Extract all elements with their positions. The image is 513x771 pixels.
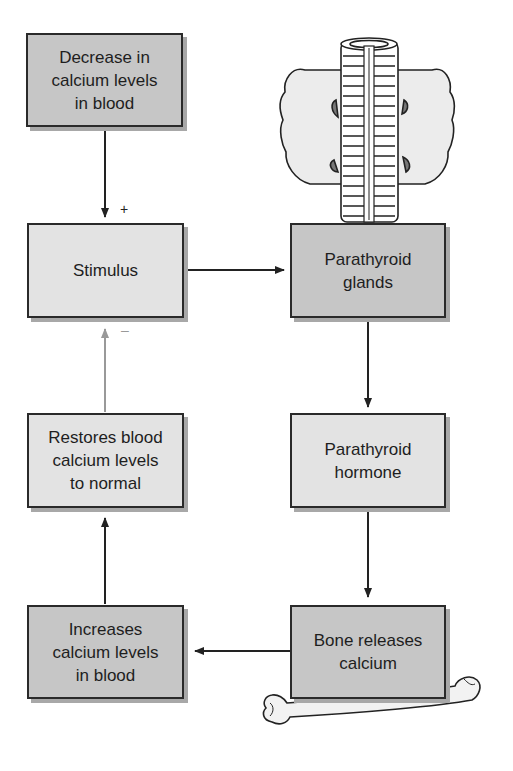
box-stimulus: Stimulus	[27, 223, 184, 318]
box-decrease-calcium: Decrease in calcium levels in blood	[26, 33, 183, 127]
positive-sign: +	[120, 201, 128, 217]
box-parathyroid-glands: Parathyroid glands	[290, 223, 446, 318]
box-bone-releases-label: Bone releases calcium	[314, 629, 423, 675]
trachea-parathyroid-illustration	[280, 38, 454, 222]
box-bone-releases: Bone releases calcium	[290, 605, 446, 699]
box-restores-calcium-label: Restores blood calcium levels to normal	[48, 426, 162, 495]
box-stimulus-label: Stimulus	[73, 259, 138, 282]
box-increases-calcium: Increases calcium levels in blood	[27, 605, 184, 699]
box-restores-calcium: Restores blood calcium levels to normal	[27, 413, 184, 508]
box-parathyroid-hormone: Parathyroid hormone	[290, 413, 446, 508]
box-parathyroid-glands-label: Parathyroid glands	[325, 248, 412, 294]
negative-sign: –	[121, 322, 129, 338]
box-decrease-calcium-label: Decrease in calcium levels in blood	[52, 46, 158, 115]
box-increases-calcium-label: Increases calcium levels in blood	[53, 618, 159, 687]
box-parathyroid-hormone-label: Parathyroid hormone	[325, 438, 412, 484]
